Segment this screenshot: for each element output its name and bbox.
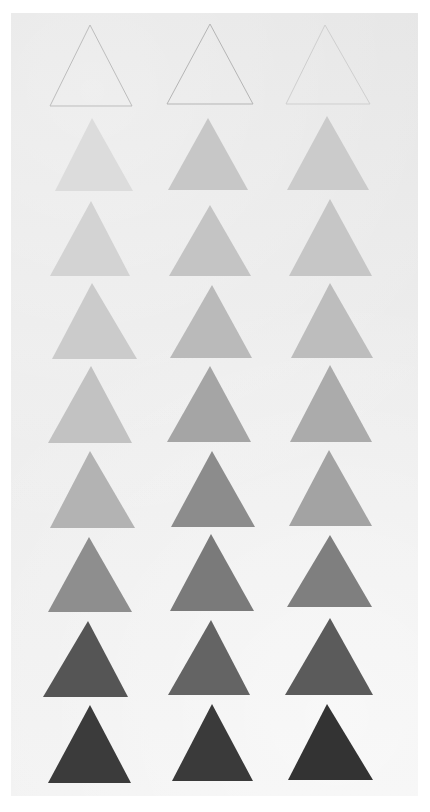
triangle-icon: [48, 537, 132, 612]
triangle-icon: [43, 621, 128, 697]
triangle-icon: [170, 534, 254, 611]
triangle-icon: [52, 283, 137, 359]
triangle-icon: [289, 450, 372, 526]
triangle-row-9: [48, 704, 373, 783]
triangle-icon: [287, 535, 372, 607]
triangle-row-6: [50, 450, 372, 528]
triangle-icon: [285, 618, 373, 695]
triangle-icon: [169, 205, 251, 276]
triangle-icon: [288, 704, 373, 780]
triangle-icon: [168, 620, 250, 695]
triangle-icon: [286, 25, 370, 104]
triangle-row-4: [52, 283, 373, 359]
triangle-row-8: [43, 618, 373, 697]
triangle-icon: [167, 366, 251, 442]
triangle-row-1: [50, 24, 370, 106]
triangle-icon: [171, 451, 255, 527]
triangle-row-2: [55, 116, 369, 191]
triangle-icon: [167, 24, 253, 104]
triangle-icon: [50, 25, 132, 106]
triangle-icon: [287, 116, 369, 190]
triangle-icon: [48, 366, 132, 443]
triangle-value-grid: [0, 0, 430, 812]
triangle-icon: [55, 118, 133, 191]
triangle-icon: [168, 118, 248, 190]
triangle-row-7: [48, 534, 372, 612]
triangle-row-3: [50, 199, 372, 276]
triangle-icon: [289, 199, 372, 276]
triangle-icon: [172, 704, 253, 781]
triangle-icon: [48, 705, 131, 783]
triangle-icon: [290, 365, 372, 442]
triangle-icon: [50, 451, 135, 528]
triangle-row-5: [48, 365, 372, 443]
triangle-icon: [291, 283, 373, 358]
triangle-icon: [50, 201, 130, 276]
triangle-icon: [170, 285, 252, 358]
